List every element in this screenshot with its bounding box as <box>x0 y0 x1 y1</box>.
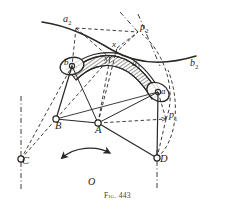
label-O: O <box>88 177 95 187</box>
label-a1: a1 <box>132 58 140 70</box>
label-p2: p2 <box>140 22 148 34</box>
label-D: D <box>160 154 168 165</box>
pivot-symbols <box>18 116 160 162</box>
label-joint-a: a <box>161 87 166 96</box>
label-x-lower: x <box>104 54 108 63</box>
label-x-upper: x <box>112 40 116 49</box>
label-b2: b2 <box>190 58 198 70</box>
label-p1: p1 <box>169 110 177 122</box>
figure-page: a2 p2 b2 a1 p1 x x a b A B C D O Fig. 44… <box>0 0 235 211</box>
figure-caption: Fig. 443 <box>0 191 235 200</box>
label-B: B <box>55 121 61 132</box>
label-joint-b: b <box>64 58 69 67</box>
label-A: A <box>95 125 101 136</box>
label-C: C <box>22 156 29 167</box>
rotation-arrow <box>62 148 110 158</box>
figure-drawing <box>0 0 235 211</box>
label-a2: a2 <box>63 14 71 26</box>
